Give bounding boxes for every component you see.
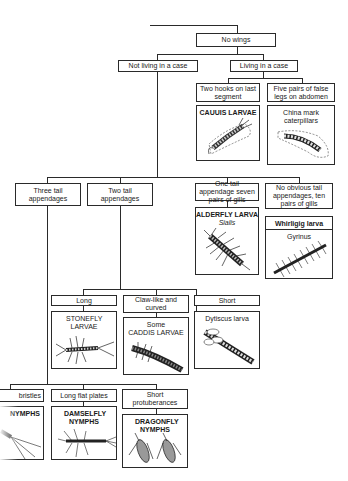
node-flat-plates: Long flat plates xyxy=(51,389,117,402)
dytiscus-larva-illustration xyxy=(195,312,261,370)
node-label: Five pairs of false legs on abdomen xyxy=(270,85,332,101)
node-label: No wings xyxy=(222,36,251,44)
node-label: Long flat plates xyxy=(60,392,107,400)
alderfly-larva-illustration xyxy=(196,208,260,276)
result-some-caddis: Some CADDIS LARVAE xyxy=(123,317,189,375)
node-label: Not living in a case xyxy=(129,62,188,70)
node-label: Short protuberances xyxy=(125,391,185,407)
node-label: Long xyxy=(76,297,92,305)
result-caddis-larvae: CAUUIS LARVAE xyxy=(196,105,260,161)
node-label: One tail appendage seven pairs of gills xyxy=(198,180,256,204)
stonefly-larva-illustration xyxy=(52,312,118,370)
edge-fade xyxy=(0,406,18,460)
node-label: Short xyxy=(219,297,236,305)
result-whirligig: Whirligig larva Gyrinus xyxy=(265,216,333,279)
caddis-larva-illustration xyxy=(197,106,261,162)
node-short: Short xyxy=(194,295,260,306)
node-two-hooks: Two hooks on last segment xyxy=(196,83,260,102)
result-dragonfly: DRAGONFLY NYMPHS xyxy=(122,414,188,468)
node-one-tail: One tail appendage seven pairs of gills xyxy=(195,183,259,201)
node-not-in-case: Not living in a case xyxy=(118,60,198,72)
node-two-tail: Two tail appendages xyxy=(87,183,153,206)
node-label: Three tail appendages xyxy=(18,187,78,203)
connector xyxy=(157,72,158,177)
connector xyxy=(150,25,237,26)
node-five-pairs: Five pairs of false legs on abdomen xyxy=(267,83,335,102)
result-china-mark: China mark caterpillars xyxy=(267,105,335,165)
connector xyxy=(157,54,263,55)
node-label: Two tail appendages xyxy=(90,187,150,203)
caterpillar-illustration xyxy=(268,106,336,166)
node-short-protuberances: Short protuberances xyxy=(122,389,188,409)
node-label: Claw-like and curved xyxy=(126,296,186,312)
connector xyxy=(47,177,299,178)
connector xyxy=(83,289,196,290)
node-no-wings: No wings xyxy=(196,33,276,47)
caddis-larva-illustration xyxy=(124,318,190,376)
node-claw: Claw-like and curved xyxy=(123,295,189,313)
result-damselfly: DAMSELFLY NYMPHS xyxy=(51,406,117,460)
connector xyxy=(47,206,48,384)
node-in-case: Living in a case xyxy=(230,60,298,72)
dragonfly-nymph-illustration xyxy=(123,415,189,469)
result-dytiscus: Dytiscus larva xyxy=(194,311,260,369)
node-no-tail: No obvious tail appendages, ten pairs of… xyxy=(265,183,333,209)
node-label: bristles xyxy=(19,392,41,400)
node-three-tail: Three tail appendages xyxy=(15,183,81,206)
connector xyxy=(237,25,238,33)
node-bristles: bristles xyxy=(0,389,44,402)
connector xyxy=(120,206,121,289)
node-label: Two hooks on last segment xyxy=(199,85,257,101)
damselfly-nymph-illustration xyxy=(52,407,118,461)
node-label: Living in a case xyxy=(240,62,288,70)
node-long: Long xyxy=(51,295,117,306)
node-label: No obvious tail appendages, ten pairs of… xyxy=(268,184,330,208)
connector xyxy=(228,78,302,79)
whirligig-larva-illustration xyxy=(266,217,334,280)
result-stonefly: STONEFLY LARVAE xyxy=(51,311,117,369)
result-alderfly: ALDERFLY LARVA Sialis xyxy=(195,207,259,275)
connector xyxy=(237,47,238,54)
